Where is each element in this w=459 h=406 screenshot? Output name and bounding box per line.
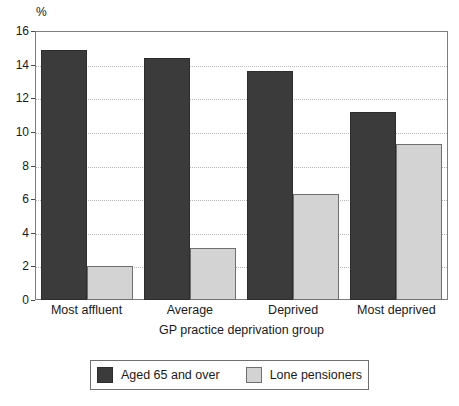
bar-aged-65-and-over [247,71,293,300]
y-axis-tick-label: 6 [22,193,29,205]
bar-chart: % 0246810121416 Most affluentAverageDepr… [0,0,459,406]
x-axis-tick-label: Average [167,303,213,318]
x-axis-title: GP practice deprivation group [35,323,448,338]
legend-label: Aged 65 and over [121,368,220,382]
legend-label: Lone pensioners [270,368,362,382]
y-axis-tick-label: 12 [16,92,29,104]
legend: Aged 65 and over Lone pensioners [90,360,369,390]
y-axis-tick-label: 10 [16,126,29,138]
y-axis-tick-label: 8 [22,160,29,172]
bar-lone-pensioners [87,266,133,300]
y-axis-tick-label: 0 [22,294,29,306]
x-axis-category-labels: Most affluentAverageDeprivedMost deprive… [35,303,448,323]
y-axis-unit-label: % [36,6,47,18]
y-axis-tick-label: 2 [22,260,29,272]
bar-aged-65-and-over [144,58,190,300]
y-axis-tick-label: 4 [22,227,29,239]
y-axis: 0246810121416 [0,31,35,300]
legend-swatch-icon [246,367,262,383]
x-axis-tick-label: Deprived [268,303,318,318]
y-axis-tick-label: 14 [16,59,29,71]
bar-lone-pensioners [293,194,339,300]
y-axis-tick-label: 16 [16,25,29,37]
bar-aged-65-and-over [350,112,396,300]
y-axis-tick-mark [31,300,35,301]
bar-lone-pensioners [396,144,442,300]
x-axis-tick-label: Most deprived [357,303,436,318]
bar-aged-65-and-over [41,50,87,300]
bar-lone-pensioners [190,248,236,300]
legend-item-aged-65-and-over: Aged 65 and over [97,367,220,383]
bars-layer [35,31,448,300]
x-axis-tick-label: Most affluent [51,303,122,318]
legend-item-lone-pensioners: Lone pensioners [246,367,362,383]
legend-swatch-icon [97,367,113,383]
